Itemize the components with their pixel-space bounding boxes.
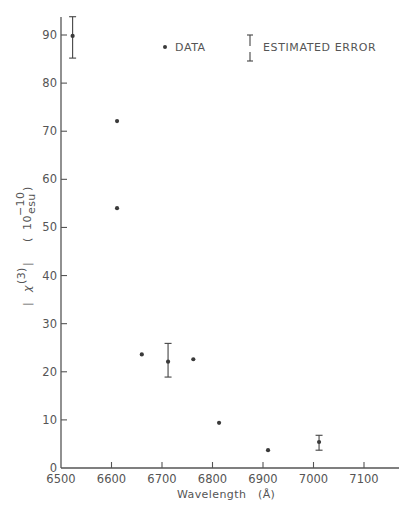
y-tick-label: 50 <box>42 220 57 234</box>
y-axis-ticks: 0102030405060708090 <box>42 28 67 475</box>
legend-data-label: DATA <box>175 41 206 54</box>
legend: DATA ESTIMATED ERROR <box>163 35 376 61</box>
chart-canvas: 6500660067006800690070007100 01020304050… <box>0 0 417 522</box>
x-tick-label: 7100 <box>349 472 378 486</box>
x-tick-label: 6900 <box>248 472 277 486</box>
x-tick-label: 7000 <box>299 472 328 486</box>
y-tick-label: 90 <box>42 28 57 42</box>
y-tick-label: 30 <box>42 317 57 331</box>
y-axis-unit-close: ) <box>21 186 34 191</box>
data-point <box>217 421 221 425</box>
legend-errorbar-icon <box>247 35 253 61</box>
y-tick-label: 10 <box>42 413 57 427</box>
x-tick-label: 6700 <box>147 472 176 486</box>
y-tick-label: 0 <box>50 461 57 475</box>
axes <box>61 17 399 468</box>
y-tick-label: 40 <box>42 269 57 283</box>
x-axis-unit: (Å) <box>258 488 275 501</box>
data-point <box>140 352 144 356</box>
x-tick-label: 6600 <box>97 472 126 486</box>
y-tick-label: 20 <box>42 365 57 379</box>
data-point <box>266 448 270 452</box>
legend-error-label: ESTIMATED ERROR <box>263 41 376 54</box>
x-axis-title: Wavelength <box>177 488 246 501</box>
y-axis-title-chi: χ <box>21 285 34 293</box>
y-axis-unit-name: esu <box>25 193 38 214</box>
x-tick-label: 6800 <box>198 472 227 486</box>
data-point <box>71 34 75 38</box>
y-tick-label: 80 <box>42 76 57 90</box>
data-points <box>69 17 322 453</box>
legend-data-marker-icon <box>163 45 167 49</box>
data-point <box>115 206 119 210</box>
y-axis-unit-open: ( <box>21 237 34 242</box>
y-axis-unit-base: 10 <box>21 215 34 230</box>
y-axis-title-chi-left: | <box>21 302 34 306</box>
y-axis-title-chi-right: | <box>21 262 34 266</box>
y-tick-label: 60 <box>42 172 57 186</box>
data-point <box>191 357 195 361</box>
data-point <box>166 360 170 364</box>
y-axis-title-chi-superscript: (3) <box>15 267 28 284</box>
data-point <box>317 440 321 444</box>
y-axis-title: | χ (3) | ( 10 −10 esu ) <box>14 186 38 306</box>
y-tick-label: 70 <box>42 124 57 138</box>
x-axis-ticks: 6500660067006800690070007100 <box>46 462 378 486</box>
data-point <box>115 119 119 123</box>
